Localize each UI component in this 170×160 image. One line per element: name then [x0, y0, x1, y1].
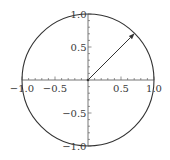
unit-vector-arrow [88, 38, 130, 80]
x-tick-label: −1.0 [10, 83, 34, 94]
y-tick-label: −0.5 [62, 108, 86, 119]
x-tick-label: 0.5 [113, 83, 129, 94]
x-tick-label: −0.5 [43, 83, 67, 94]
x-tick-label: 1.0 [146, 83, 162, 94]
y-tick-label: −1.0 [62, 141, 86, 152]
y-tick-label: 1.0 [71, 9, 87, 20]
y-tick-label: 0.5 [71, 42, 87, 53]
unit-circle-plot: −1.0−0.50.51.01.00.5−0.5−1.0 [0, 0, 170, 160]
